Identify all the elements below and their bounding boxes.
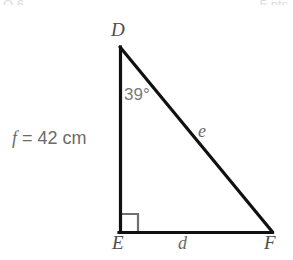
measurement-unit: cm <box>63 128 87 148</box>
vertex-label-e: E <box>112 233 124 252</box>
measurement-equals: = <box>17 128 38 148</box>
geometry-figure: Q 6. 5 pts D E F e d 39° f = 42 cm <box>0 0 293 260</box>
measurement-value: 42 <box>38 128 58 148</box>
vertex-label-f: F <box>264 233 276 252</box>
angle-label-39-degrees: 39° <box>124 86 150 103</box>
vertex-label-d: D <box>111 20 125 39</box>
side-label-d: d <box>178 234 187 252</box>
right-angle-marker <box>120 214 138 232</box>
side-e-line <box>120 47 273 232</box>
side-label-e: e <box>198 122 206 140</box>
side-measurement-label-f: f = 42 cm <box>12 129 87 147</box>
